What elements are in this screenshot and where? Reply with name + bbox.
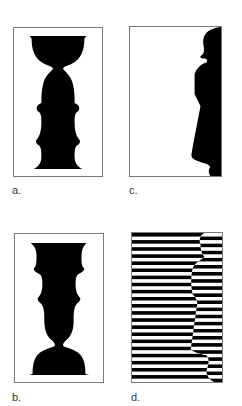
panel-c-label: c.	[129, 184, 138, 196]
panel-d-label: d.	[131, 391, 140, 403]
striped-profile-pattern	[132, 233, 222, 382]
panel-b-vase	[14, 233, 104, 383]
panel-c-figure	[129, 26, 222, 177]
panel-a-vase	[13, 27, 103, 177]
panel-d-stripes	[131, 232, 223, 383]
panel-a-label: a.	[12, 184, 21, 196]
vase-silhouette-icon	[14, 28, 102, 176]
inverted-vase-silhouette-icon	[15, 234, 103, 382]
figure-silhouette-icon	[130, 27, 221, 176]
panel-b-label: b.	[12, 391, 21, 403]
